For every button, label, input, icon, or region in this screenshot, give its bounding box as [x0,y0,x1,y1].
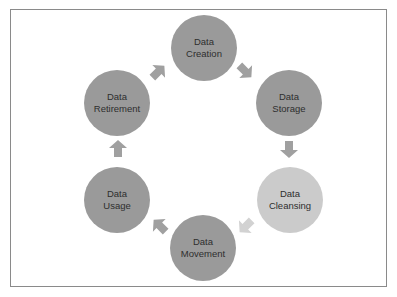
node-data-creation: Data Creation [171,15,237,81]
arrow-right-icon [279,139,299,159]
node-data-retirement: Data Retirement [84,70,150,136]
node-label-line1: Data [193,236,213,248]
node-label-line2: Cleansing [269,200,311,212]
node-label-line2: Movement [181,248,225,260]
node-label-line2: Usage [103,200,130,212]
node-label-line1: Data [194,36,214,48]
node-data-cleansing: Data Cleansing [257,167,323,233]
arrow-right-icon [108,139,128,159]
node-data-movement: Data Movement [170,215,236,281]
node-label-line1: Data [107,188,127,200]
node-label-line1: Data [279,91,299,103]
node-data-usage: Data Usage [84,167,150,233]
node-label-line2: Storage [272,103,305,115]
node-label-line2: Creation [186,48,222,60]
node-data-storage: Data Storage [256,70,322,136]
node-label-line1: Data [280,188,300,200]
node-label-line1: Data [107,91,127,103]
node-label-line2: Retirement [94,103,140,115]
